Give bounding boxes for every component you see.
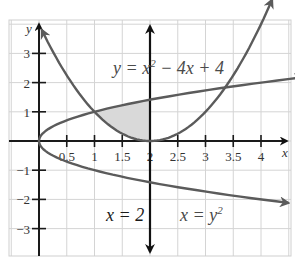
- x-tick-label: 3: [202, 149, 209, 164]
- y-tick-label: −3: [16, 222, 30, 237]
- x-tick-label: 2.5: [170, 149, 186, 164]
- equation-parabola-suffix: − 4x + 4: [156, 58, 224, 78]
- y-tick-label: −1: [16, 163, 30, 178]
- x-axis-label: x: [281, 145, 288, 160]
- equation-sideways-prefix: x = y: [179, 205, 217, 225]
- equation-parabola-prefix: y = x: [111, 58, 150, 78]
- y-tick-label: 3: [24, 46, 31, 61]
- y-axis-label: y: [24, 21, 32, 36]
- equation-sideways-parabola: x = y2: [179, 204, 223, 225]
- x-tick-label: 3.5: [225, 149, 241, 164]
- x-tick-label: 1.5: [114, 149, 130, 164]
- equation-sideways-exponent: 2: [217, 204, 223, 216]
- graph: 0.511.522.533.54 321−1−2−3 y x y = x2 − …: [0, 0, 295, 260]
- y-tick-label: 1: [24, 105, 31, 120]
- x-tick-label: 4: [258, 149, 265, 164]
- y-tick-label: −2: [16, 192, 30, 207]
- x-tick-label: 1: [91, 149, 98, 164]
- equation-vertical-line: x = 2: [105, 205, 144, 225]
- y-tick-label: 2: [24, 76, 31, 91]
- equation-parabola: y = x2 − 4x + 4: [111, 57, 224, 78]
